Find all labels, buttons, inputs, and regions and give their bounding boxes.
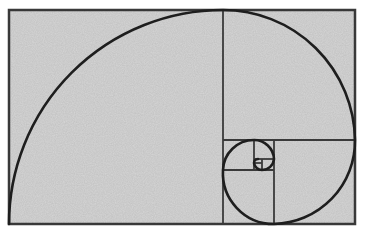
golden-spiral-diagram: Golden spiral in Fibonacci rectangle [0, 0, 371, 237]
paper-texture [9, 10, 355, 224]
diagram-canvas [0, 0, 371, 237]
